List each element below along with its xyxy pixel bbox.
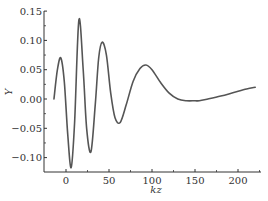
y-axis-label: Y xyxy=(3,87,14,95)
x-tick-label: 50 xyxy=(103,175,116,186)
x-axis-label: kz xyxy=(150,184,162,195)
y-axis: −0.10−0.050.000.050.100.15 xyxy=(11,6,47,172)
y-tick-label: −0.10 xyxy=(11,152,42,163)
y-tick-label: 0.05 xyxy=(20,64,42,75)
y-tick-label: 0.00 xyxy=(20,94,42,105)
y-tick-label: 0.10 xyxy=(20,35,42,46)
x-tick-label: 0 xyxy=(63,175,69,186)
y-tick-label: −0.05 xyxy=(11,123,42,134)
y-tick-label: 0.15 xyxy=(20,6,42,17)
x-tick-label: 200 xyxy=(228,175,247,186)
x-tick-label: 150 xyxy=(185,175,204,186)
line-chart: −0.10−0.050.000.050.100.15 050100150200 … xyxy=(0,0,268,201)
data-line xyxy=(54,19,255,168)
